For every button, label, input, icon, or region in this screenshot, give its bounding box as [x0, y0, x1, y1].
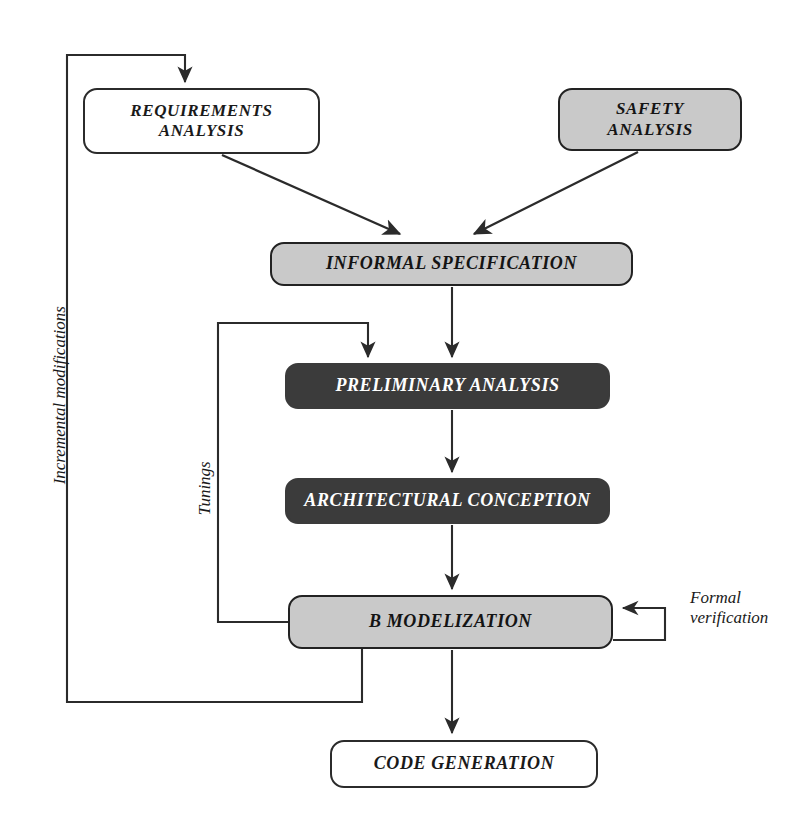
edge-label-formal-verification-line2: verification: [690, 608, 800, 628]
edge-requirements-to-informal: [222, 155, 400, 234]
node-safety-analysis[interactable]: SAFETY ANALYSIS: [558, 88, 742, 151]
edge-label-incremental-modifications: Incremental modifications: [50, 285, 70, 505]
node-requirements-analysis[interactable]: REQUIREMENTS ANALYSIS: [83, 88, 320, 154]
node-informal-specification[interactable]: INFORMAL SPECIFICATION: [270, 242, 633, 286]
node-code-generation-label: CODE GENERATION: [374, 753, 555, 774]
edge-formal-verification-selfloop: [613, 608, 665, 640]
node-architectural-conception[interactable]: ARCHITECTURAL CONCEPTION: [285, 478, 610, 524]
node-preliminary-analysis-label: PRELIMINARY ANALYSIS: [335, 375, 559, 396]
node-b-modelization[interactable]: B MODELIZATION: [288, 595, 613, 649]
node-b-modelization-label: B MODELIZATION: [369, 611, 532, 632]
node-preliminary-analysis[interactable]: PRELIMINARY ANALYSIS: [285, 363, 610, 409]
edge-label-formal-verification: Formal verification: [690, 588, 800, 629]
node-informal-specification-label: INFORMAL SPECIFICATION: [326, 253, 577, 274]
node-safety-analysis-line1: SAFETY: [607, 99, 692, 119]
edge-label-incremental-modifications-text: Incremental modifications: [50, 306, 69, 484]
edge-label-formal-verification-line1: Formal: [690, 588, 800, 608]
edge-safety-to-informal: [474, 152, 638, 234]
node-architectural-conception-label: ARCHITECTURAL CONCEPTION: [304, 490, 590, 511]
node-safety-analysis-line2: ANALYSIS: [607, 120, 692, 140]
edge-label-tunings-text: Tunings: [195, 461, 214, 515]
node-requirements-analysis-line2: ANALYSIS: [130, 121, 272, 141]
edge-label-tunings: Tunings: [195, 438, 215, 538]
node-requirements-analysis-line1: REQUIREMENTS: [130, 101, 272, 121]
process-flow-diagram: REQUIREMENTS ANALYSIS SAFETY ANALYSIS IN…: [0, 0, 807, 831]
node-code-generation[interactable]: CODE GENERATION: [330, 740, 598, 788]
